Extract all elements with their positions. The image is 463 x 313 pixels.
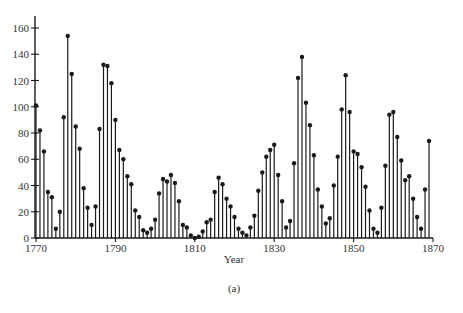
stem-point (113, 118, 117, 238)
stem-point (288, 219, 292, 238)
stem-point (70, 72, 74, 238)
stem-point (339, 107, 343, 238)
stem-point (343, 73, 347, 238)
stem-point (411, 196, 415, 238)
stem-point (296, 76, 300, 238)
stem-point (153, 217, 157, 238)
stem-point (216, 175, 220, 238)
stem-point (399, 158, 403, 238)
stem-point (375, 231, 379, 238)
x-axis-title: Year (224, 253, 245, 265)
stem-point (157, 191, 161, 238)
stem-point (304, 101, 308, 238)
stem-point (328, 216, 332, 238)
stem-point (379, 206, 383, 238)
x-tick-label: 1810 (184, 242, 207, 254)
x-tick-label: 1770 (25, 242, 48, 254)
stem-point (58, 210, 62, 238)
stem-point (256, 189, 260, 238)
stem-point (403, 178, 407, 238)
stem-point (336, 154, 340, 238)
stem-point (371, 227, 375, 238)
stem-point (97, 127, 101, 238)
stem-point (125, 174, 129, 238)
stem-point (351, 149, 355, 238)
stem-point (201, 229, 205, 238)
stem-point (268, 148, 272, 238)
stem-point (189, 233, 193, 238)
y-tick-label: 120 (13, 75, 30, 87)
stem-point (121, 157, 125, 238)
sunspot-stem-chart: 020406080100120140160 177017901810183018… (0, 0, 463, 313)
stem-point (395, 135, 399, 238)
stem-point (320, 204, 324, 238)
stem-point (141, 228, 145, 238)
stem-point (252, 213, 256, 238)
stem-point (423, 187, 427, 238)
stem-point (244, 233, 248, 238)
stem-point (50, 195, 54, 238)
stem-point (419, 227, 423, 238)
stem-point (359, 165, 363, 238)
stem-point (347, 110, 351, 238)
stem-point (117, 148, 121, 238)
stem-point (236, 227, 240, 238)
figure-caption: (a) (228, 282, 241, 295)
data-stems (34, 34, 431, 241)
stem-point (355, 152, 359, 238)
stem-point (415, 215, 419, 238)
stem-point (93, 204, 97, 238)
stem-point (105, 64, 109, 238)
stem-point (276, 173, 280, 238)
stem-point (81, 186, 85, 238)
stem-point (46, 190, 50, 238)
stem-point (54, 227, 58, 238)
y-tick-label: 80 (18, 127, 30, 139)
y-tick-label: 140 (13, 48, 30, 60)
y-tick-label: 20 (18, 206, 30, 218)
stem-point (292, 161, 296, 238)
stem-point (181, 223, 185, 238)
y-tick-label: 60 (18, 153, 30, 165)
y-tick-label: 160 (13, 22, 30, 34)
stem-point (332, 183, 336, 238)
stem-point (284, 225, 288, 238)
y-tick-label: 100 (13, 101, 30, 113)
stem-point (109, 81, 113, 238)
stem-point (169, 173, 173, 238)
stem-point (62, 115, 66, 238)
x-tick-label: 1830 (263, 242, 286, 254)
stem-point (208, 217, 212, 238)
stem-point (272, 143, 276, 238)
y-tick-label: 40 (18, 180, 30, 192)
x-tick-label: 1850 (343, 242, 366, 254)
stem-point (387, 112, 391, 238)
stem-point (149, 227, 153, 238)
stem-point (248, 225, 252, 238)
stem-point (264, 154, 268, 238)
stem-point (133, 208, 137, 238)
stem-point (212, 190, 216, 238)
stem-point (42, 149, 46, 238)
stem-point (240, 231, 244, 238)
stem-point (312, 153, 316, 238)
stem-point (89, 223, 93, 238)
stem-point (165, 179, 169, 238)
stem-point (173, 181, 177, 238)
stem-point (137, 215, 141, 238)
stem-point (383, 164, 387, 238)
stem-point (161, 177, 165, 238)
stem-point (324, 221, 328, 238)
stem-point (66, 34, 70, 238)
stem-point (407, 174, 411, 238)
x-axis-ticks: 177017901810183018501870 (25, 238, 445, 254)
stem-point (308, 123, 312, 238)
stem-point (427, 139, 431, 238)
stem-point (367, 208, 371, 238)
stem-point (300, 55, 304, 238)
stem-point (145, 231, 149, 238)
stem-point (232, 215, 236, 238)
stem-point (177, 199, 181, 238)
stem-point (205, 220, 209, 238)
stem-point (185, 225, 189, 238)
